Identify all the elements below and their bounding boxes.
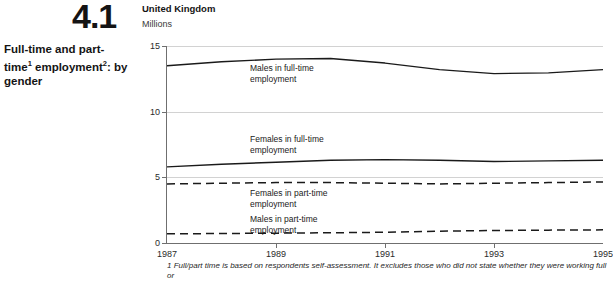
y-tick-label-10: 10 xyxy=(150,107,160,117)
chart-units-label: Millions xyxy=(142,19,172,29)
y-tick-mark-0 xyxy=(162,243,167,244)
x-tick-label-1991: 1991 xyxy=(375,249,395,259)
series-line-females-in-full-time-employment xyxy=(167,160,603,167)
series-label-males-part-time: Males in part-time employment xyxy=(250,214,318,235)
figure-title-line2: employment xyxy=(35,60,103,72)
x-tick-mark-1993 xyxy=(494,243,495,248)
x-tick-label-1987: 1987 xyxy=(157,249,177,259)
series-label-females-part-time: Females in part-time employment xyxy=(250,188,327,209)
figure-title: Full-time and part-time1 employment2: by… xyxy=(4,42,130,88)
x-tick-mark-1991 xyxy=(385,243,386,248)
y-tick-label-0: 0 xyxy=(155,238,160,248)
y-tick-label-15: 15 xyxy=(150,41,160,51)
series-line-males-in-part-time-employment xyxy=(167,230,603,234)
series-lines xyxy=(167,46,603,243)
chart-footnote: 1 Full/part time is based on respondents… xyxy=(167,261,611,281)
figure-number: 4.1 xyxy=(72,0,116,36)
x-tick-label-1989: 1989 xyxy=(266,249,286,259)
y-tick-label-5: 5 xyxy=(155,172,160,182)
series-label-males-full-time: Males in full-time employment xyxy=(250,63,314,84)
series-line-males-in-full-time-employment xyxy=(167,58,603,73)
chart-plot-area: 051015 19871989199119931995 Males in ful… xyxy=(167,46,603,243)
x-tick-label-1995: 1995 xyxy=(593,249,613,259)
series-line-females-in-part-time-employment xyxy=(167,182,603,184)
x-tick-label-1993: 1993 xyxy=(484,249,504,259)
figure-title-footnote-marker-1: 1 xyxy=(28,59,32,68)
chart-country-heading: United Kingdom xyxy=(142,3,215,14)
x-tick-mark-1989 xyxy=(276,243,277,248)
series-label-females-full-time: Females in full-time employment xyxy=(250,134,324,155)
